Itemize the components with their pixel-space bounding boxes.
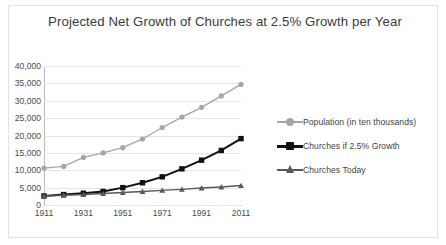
legend-label: Churches Today xyxy=(303,165,366,175)
y-axis-labels: 05,00010,00015,00020,00025,00030,00035,0… xyxy=(0,66,41,205)
data-point-marker xyxy=(41,166,46,171)
data-point-marker xyxy=(238,82,243,87)
chart-container: Projected Net Growth of Churches at 2.5%… xyxy=(0,0,446,245)
data-point-marker xyxy=(179,166,184,171)
square-marker-icon xyxy=(277,140,303,152)
legend-item[interactable]: Population (in ten thousands) xyxy=(277,112,437,132)
y-axis-tick-label: 40,000 xyxy=(1,61,41,71)
circle-marker-icon xyxy=(277,116,303,128)
y-axis-tick-label: 25,000 xyxy=(1,113,41,123)
series-lines xyxy=(44,66,241,205)
x-axis-labels: 191119311951197119912011 xyxy=(44,208,242,222)
data-point-marker xyxy=(120,185,125,190)
data-point-marker xyxy=(160,125,165,130)
data-point-marker xyxy=(219,93,224,98)
x-axis-tick-label: 1971 xyxy=(153,208,172,218)
y-axis-tick-label: 30,000 xyxy=(1,96,41,106)
legend-label: Population (in ten thousands) xyxy=(303,117,416,127)
data-point-marker xyxy=(140,136,145,141)
x-axis-tick-label: 1991 xyxy=(192,208,211,218)
x-axis-tick-label: 1931 xyxy=(74,208,93,218)
legend-item[interactable]: Churches Today xyxy=(277,160,437,180)
y-axis-tick-label: 35,000 xyxy=(1,78,41,88)
legend-label: Churches if 2.5% Growth xyxy=(303,141,400,151)
gridline xyxy=(44,205,241,206)
data-point-marker xyxy=(179,114,184,119)
y-axis-tick-label: 5,000 xyxy=(1,183,41,193)
data-point-marker xyxy=(219,148,224,153)
data-point-marker xyxy=(120,145,125,150)
data-point-marker xyxy=(199,157,204,162)
triangle-marker-icon xyxy=(277,164,303,176)
data-point-marker xyxy=(199,105,204,110)
data-point-marker xyxy=(61,164,66,169)
data-point-marker xyxy=(140,180,145,185)
legend-item[interactable]: Churches if 2.5% Growth xyxy=(277,136,437,156)
data-point-marker xyxy=(101,150,106,155)
data-point-marker xyxy=(81,155,86,160)
x-axis-tick-label: 1951 xyxy=(113,208,132,218)
x-axis-tick-label: 2011 xyxy=(232,208,250,218)
x-axis-tick-label: 1911 xyxy=(35,208,53,218)
plot-area xyxy=(44,66,241,205)
chart-legend: Population (in ten thousands)Churches if… xyxy=(277,112,437,184)
y-axis-tick-label: 10,000 xyxy=(1,165,41,175)
y-axis-tick-label: 15,000 xyxy=(1,148,41,158)
data-point-marker xyxy=(160,174,165,179)
data-point-marker xyxy=(238,136,243,141)
y-axis-tick-label: 20,000 xyxy=(1,131,41,141)
chart-title: Projected Net Growth of Churches at 2.5%… xyxy=(30,13,420,30)
